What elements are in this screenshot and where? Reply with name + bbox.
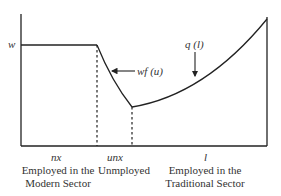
unx-label: unx xyxy=(107,151,123,163)
l-label: l xyxy=(204,151,207,163)
nx-label: nx xyxy=(51,151,61,163)
q-curve xyxy=(132,19,267,107)
unemployed-caption: Unmployed xyxy=(98,164,146,177)
wf-label: wf (u) xyxy=(137,65,163,77)
modern-caption-line1: Employed in the xyxy=(20,164,96,177)
traditional-caption-line2: Traditional Sector xyxy=(160,177,250,190)
q-label: q (l) xyxy=(185,38,204,50)
traditional-sector-caption: Employed in the Traditional Sector xyxy=(160,164,250,190)
traditional-caption-line1: Employed in the xyxy=(160,164,250,177)
unemployed-caption-line: Unmployed xyxy=(98,164,146,177)
modern-sector-caption: Employed in the Modern Sector xyxy=(20,164,96,190)
modern-caption-line2: Modern Sector xyxy=(20,177,96,190)
wage-label: w xyxy=(8,38,15,50)
wf-curve xyxy=(97,45,132,107)
